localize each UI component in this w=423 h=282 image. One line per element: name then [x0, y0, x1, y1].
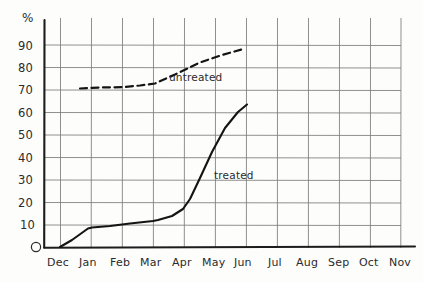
x-tick-label-feb: Feb [110, 256, 130, 269]
y-tick-label-80: 80 [18, 61, 33, 75]
y-tick-label-30: 30 [18, 173, 33, 187]
gridline-40 [45, 158, 401, 159]
y-tick-label-50: 50 [18, 128, 33, 142]
y-tick-label-40: 40 [18, 151, 33, 165]
x-tick-label-sep: Sep [328, 256, 349, 269]
x-tick-label-jun: Jun [233, 256, 252, 269]
y-tick-label-70: 70 [18, 83, 33, 97]
hand-drawn-line-chart: % 90 80 70 60 50 40 30 20 10 Dec Jan Feb… [0, 0, 423, 282]
x-tick-label-nov: Nov [389, 256, 411, 269]
x-tick-label-may: May [202, 256, 226, 269]
x-tick-label-mar: Mar [140, 256, 162, 269]
x-tick-label-apr: Apr [172, 256, 192, 269]
x-axis [44, 247, 415, 248]
y-axis-unit-label: % [22, 11, 34, 25]
y-tick-label-90: 90 [18, 39, 33, 53]
gridline-60 [45, 113, 401, 114]
x-tick-label-jan: Jan [78, 256, 97, 269]
gridline-50 [45, 135, 401, 136]
x-tick-label-oct: Oct [359, 256, 379, 269]
gridline-10 [45, 225, 401, 226]
y-tick-label-60: 60 [18, 106, 33, 120]
gridline-80 [45, 68, 401, 69]
x-tick-label-aug: Aug [296, 256, 318, 269]
y-tick-label-10: 10 [20, 218, 35, 232]
series-annotation-untreated: untreated [169, 71, 222, 83]
zero-origin-marker [31, 242, 40, 251]
x-tick-label-jul: Jul [267, 256, 282, 269]
chart-canvas: % 90 80 70 60 50 40 30 20 10 Dec Jan Feb… [0, 0, 423, 282]
horizontal-gridlines [45, 45, 401, 226]
gridline-70 [45, 90, 401, 91]
series-annotation-treated: treated [214, 169, 254, 181]
x-tick-label-dec: Dec [47, 256, 69, 269]
gridline-90 [45, 45, 401, 46]
y-tick-label-20: 20 [18, 196, 33, 210]
gridline-20 [45, 203, 401, 204]
